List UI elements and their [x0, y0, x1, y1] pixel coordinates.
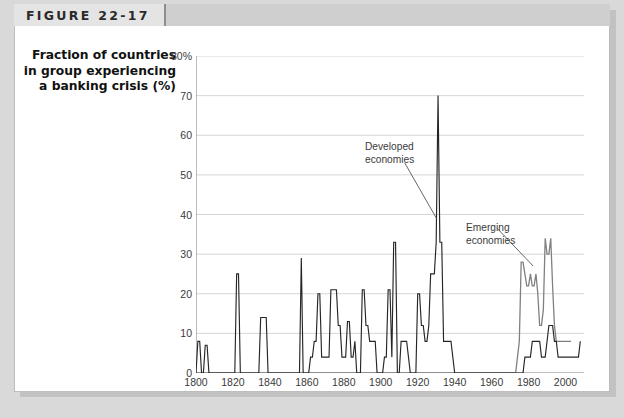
panel-shadow-right	[610, 10, 616, 397]
plot-area	[196, 56, 584, 373]
series-line-developed-economies	[196, 96, 580, 373]
y-tick-label-60: 60	[152, 130, 192, 140]
figure-number-tab: FIGURE 22-17	[14, 4, 166, 26]
leader-line-developed	[405, 163, 437, 218]
y-tick-label-20: 20	[152, 289, 192, 299]
y-axis-tick-labels: 01020304050607080%	[150, 0, 192, 380]
figure-root: FIGURE 22-17 Fraction of countries in gr…	[0, 0, 624, 418]
y-tick-label-30: 30	[152, 249, 192, 259]
figure-number-label: FIGURE 22-17	[26, 8, 150, 23]
annotation-developed-economies: Developed economies	[365, 141, 414, 166]
x-axis-tick-labels: 1800182018401860188019001920194019601980…	[196, 376, 596, 392]
annotation-emerging-economies: Emerging economies	[466, 222, 515, 247]
chart-svg	[196, 56, 584, 373]
y-tick-label-40: 40	[152, 210, 192, 220]
y-tick-label-10: 10	[152, 328, 192, 338]
x-tick-label-2000: 2000	[544, 376, 588, 388]
y-tick-label-50: 50	[152, 170, 192, 180]
series-line-emerging-economies	[196, 238, 571, 373]
y-tick-label-80: 80%	[152, 51, 192, 61]
y-tick-label-70: 70	[152, 91, 192, 101]
panel-shadow-bottom	[20, 392, 616, 397]
